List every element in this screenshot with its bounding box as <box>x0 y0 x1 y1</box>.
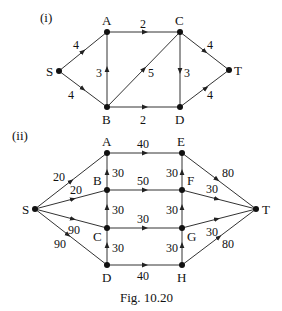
weight-s-d: 90 <box>54 237 66 251</box>
weight-d-c: 30 <box>112 241 124 255</box>
weight-a-e: 40 <box>137 137 149 151</box>
graph-ii: (ii) <box>12 128 270 285</box>
node-f <box>179 187 185 193</box>
edge-c-t <box>180 32 229 70</box>
label-f: F <box>187 173 194 188</box>
weight-s-b: 20 <box>70 183 82 197</box>
edge-b-c <box>107 32 180 107</box>
weight-e-t: 80 <box>222 166 234 180</box>
node-b <box>104 104 110 110</box>
weight-b-d: 2 <box>140 113 146 127</box>
label-t: T <box>234 63 242 78</box>
weight-c-g: 30 <box>137 212 149 226</box>
weight-b-a: 3 <box>96 66 102 80</box>
node-t <box>253 206 259 212</box>
label-a: A <box>102 13 112 28</box>
weight-s-c: 90 <box>68 223 80 237</box>
node-t <box>226 67 232 73</box>
node-s <box>56 68 62 74</box>
node-s <box>32 206 38 212</box>
weight-b-f: 50 <box>137 174 149 188</box>
graph-i: (i) 4 4 2 3 5 <box>40 10 242 127</box>
node-d <box>177 104 183 110</box>
weight-s-b: 4 <box>68 88 74 102</box>
graph-i-edges <box>59 32 229 107</box>
node-c <box>104 225 110 231</box>
edge-f-t <box>182 190 256 209</box>
node-e <box>179 150 185 156</box>
node-a <box>104 150 110 156</box>
label-d: D <box>102 270 111 285</box>
weight-s-a: 4 <box>73 38 79 52</box>
weight-c-b: 30 <box>112 203 124 217</box>
weight-f-t: 30 <box>206 182 218 196</box>
node-b <box>104 187 110 193</box>
label-h: H <box>177 270 186 285</box>
label-g: G <box>187 229 196 244</box>
label-c: C <box>175 13 184 28</box>
weight-g-f: 30 <box>166 203 178 217</box>
label-t: T <box>262 202 270 217</box>
weight-d-t: 4 <box>207 88 213 102</box>
weight-g-t: 30 <box>206 225 218 239</box>
label-b: B <box>93 173 102 188</box>
weight-s-a: 20 <box>53 170 65 184</box>
weight-a-c: 2 <box>140 17 146 31</box>
label-s: S <box>46 64 53 79</box>
weight-h-g: 30 <box>166 241 178 255</box>
graph-ii-weights: 20 20 90 90 40 50 30 40 30 30 30 30 30 3… <box>53 137 234 283</box>
edge-g-t <box>182 209 256 228</box>
label-e: E <box>177 134 185 149</box>
network-flow-figure: (i) 4 4 2 3 5 <box>0 0 282 311</box>
label-b: B <box>102 112 111 127</box>
part-ii-label: (ii) <box>12 128 28 143</box>
graph-ii-node-labels: S A B C D E F G H T <box>22 134 270 285</box>
node-a <box>104 29 110 35</box>
weight-d-h: 40 <box>137 269 149 283</box>
weight-f-e: 30 <box>166 166 178 180</box>
weight-h-t: 80 <box>222 237 234 251</box>
node-h <box>179 262 185 268</box>
label-s: S <box>22 202 29 217</box>
node-g <box>179 225 185 231</box>
weight-b-a: 30 <box>112 166 124 180</box>
figure-caption: Fig. 10.20 <box>120 290 173 305</box>
label-d: D <box>175 112 184 127</box>
weight-c-t: 4 <box>207 38 213 52</box>
weight-b-c: 5 <box>148 66 154 80</box>
label-c: C <box>93 229 102 244</box>
part-i-label: (i) <box>40 10 52 25</box>
label-a: A <box>102 134 112 149</box>
weight-c-d: 3 <box>184 66 190 80</box>
node-d <box>104 262 110 268</box>
node-c <box>177 29 183 35</box>
